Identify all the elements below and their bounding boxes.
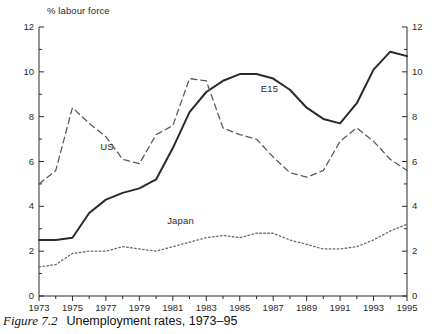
series-line-e15 bbox=[39, 52, 407, 240]
figure-caption: Figure 7.2Unemployment rates, 1973–95 bbox=[3, 313, 237, 329]
chart-plot-area bbox=[0, 0, 446, 334]
x-axis-tick-label: 1979 bbox=[122, 302, 156, 313]
y-axis-tick-label-left: 10 bbox=[12, 66, 34, 77]
y-axis-tick-label-right: 0 bbox=[412, 290, 434, 301]
x-axis-tick-label: 1987 bbox=[256, 302, 290, 313]
x-axis-tick-label: 1995 bbox=[390, 302, 424, 313]
series-label-japan: Japan bbox=[167, 215, 194, 226]
series-label-us: US bbox=[100, 141, 114, 152]
series-line-us bbox=[39, 79, 407, 184]
y-axis-tick-label-left: 0 bbox=[12, 290, 34, 301]
series-label-e15: E15 bbox=[261, 83, 279, 94]
figure-number: Figure 7.2 bbox=[3, 313, 57, 328]
x-axis-tick-label: 1977 bbox=[89, 302, 123, 313]
x-axis-tick-label: 1975 bbox=[55, 302, 89, 313]
x-axis-tick-label: 1993 bbox=[357, 302, 391, 313]
y-axis-tick-label-left: 4 bbox=[12, 200, 34, 211]
x-axis-tick-label: 1983 bbox=[189, 302, 223, 313]
series-line-japan bbox=[39, 224, 407, 267]
x-axis-tick-label: 1985 bbox=[223, 302, 257, 313]
y-axis-tick-label-left: 6 bbox=[12, 156, 34, 167]
y-axis-tick-label-left: 8 bbox=[12, 111, 34, 122]
y-axis-tick-label-right: 8 bbox=[412, 111, 434, 122]
y-axis-tick-label-left: 12 bbox=[12, 21, 34, 32]
y-axis-tick-label-right: 10 bbox=[412, 66, 434, 77]
y-axis-tick-label-right: 6 bbox=[412, 156, 434, 167]
x-axis-tick-label: 1973 bbox=[22, 302, 56, 313]
y-axis-tick-label-right: 12 bbox=[412, 21, 434, 32]
x-axis-tick-label: 1989 bbox=[290, 302, 324, 313]
x-axis-tick-label: 1991 bbox=[323, 302, 357, 313]
y-axis-tick-label-right: 4 bbox=[412, 200, 434, 211]
x-axis-tick-label: 1981 bbox=[156, 302, 190, 313]
y-axis-tick-label-right: 2 bbox=[412, 245, 434, 256]
figure-caption-text: Unemployment rates, 1973–95 bbox=[66, 314, 237, 328]
y-axis-tick-label-left: 2 bbox=[12, 245, 34, 256]
figure-container: % labour force Figure 7.2Unemployment ra… bbox=[0, 0, 446, 334]
